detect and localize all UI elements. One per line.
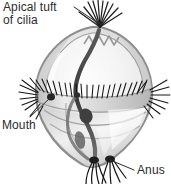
label-apical-tuft-of-cilia: Apical tuftof cilia [3,1,57,27]
label-anus: Anus [137,164,165,177]
label-apical-line2: of cilia [3,13,38,27]
label-mouth: Mouth [2,119,36,132]
anus-opening [86,155,126,184]
apical-tuft-of-cilia [79,0,122,27]
trochophore-larva-figure: Apical tuftof cilia Mouth Anus [0,0,171,184]
larva-illustration [0,0,171,184]
label-apical-line1: Apical tuft [3,0,57,14]
